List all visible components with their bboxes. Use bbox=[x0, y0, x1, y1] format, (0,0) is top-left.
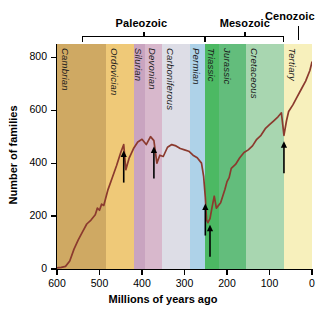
x-tick-label: 600 bbox=[37, 277, 77, 289]
x-tick-label: 0 bbox=[292, 277, 326, 289]
x-tick bbox=[184, 270, 185, 275]
y-tick-label: 800 bbox=[19, 50, 47, 62]
x-tick bbox=[269, 270, 270, 275]
era-tick-paleozoic bbox=[143, 32, 144, 37]
x-tick-label: 100 bbox=[250, 277, 290, 289]
era-tick-mesozoic bbox=[244, 32, 245, 37]
extinction-arrows bbox=[57, 44, 312, 269]
y-tick bbox=[51, 215, 56, 216]
x-tick-label: 500 bbox=[80, 277, 120, 289]
y-tick-label: 600 bbox=[19, 103, 47, 115]
x-tick bbox=[311, 270, 312, 275]
y-tick bbox=[51, 57, 56, 58]
biodiversity-chart: PaleozoicMesozoicCenozoic CambrianOrdovi… bbox=[0, 0, 326, 313]
era-label-paleozoic: Paleozoic bbox=[116, 17, 168, 29]
x-tick-label: 400 bbox=[122, 277, 162, 289]
era-tick-cenozoic bbox=[298, 26, 299, 40]
y-tick-label: 0 bbox=[19, 262, 47, 274]
y-tick bbox=[51, 268, 56, 269]
x-tick bbox=[141, 270, 142, 275]
y-axis bbox=[56, 44, 57, 270]
y-tick bbox=[51, 163, 56, 164]
y-tick bbox=[51, 110, 56, 111]
y-tick-label: 400 bbox=[19, 156, 47, 168]
y-axis-title: Number of families bbox=[7, 105, 19, 205]
y-tick-label: 200 bbox=[19, 209, 47, 221]
x-tick bbox=[99, 270, 100, 275]
x-tick-label: 200 bbox=[207, 277, 247, 289]
plot-area: CambrianOrdovicianSilurianDevonianCarbon… bbox=[57, 44, 312, 269]
x-tick-label: 300 bbox=[165, 277, 205, 289]
x-tick bbox=[226, 270, 227, 275]
x-tick bbox=[56, 270, 57, 275]
era-label-cenozoic: Cenozoic bbox=[265, 10, 315, 22]
x-axis-title: Millions of years ago bbox=[0, 293, 326, 305]
era-label-mesozoic: Mesozoic bbox=[220, 17, 270, 29]
